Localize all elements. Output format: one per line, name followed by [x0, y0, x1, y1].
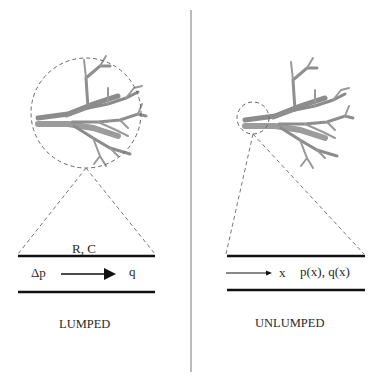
flow-label: q	[129, 265, 136, 278]
lumped-title: LUMPED	[59, 318, 110, 331]
unlumped-panel	[226, 58, 365, 290]
distributed-variables-label: p(x), q(x)	[300, 265, 350, 278]
cone-right-edge	[86, 168, 155, 254]
flow-arrowhead-icon	[104, 268, 116, 280]
pressure-drop-label: Δp	[31, 266, 46, 279]
vascular-tree-icon	[245, 58, 353, 168]
cone-right-edge	[253, 134, 364, 254]
tube-parameters-label: R, C	[72, 242, 96, 255]
vascular-tree-icon	[38, 56, 146, 166]
cone-left-edge	[226, 134, 253, 254]
x-axis-arrowhead-icon	[266, 271, 272, 276]
unlumped-title: UNLUMPED	[255, 317, 324, 330]
lumped-panel	[18, 56, 155, 292]
position-axis-label: x	[279, 266, 286, 279]
